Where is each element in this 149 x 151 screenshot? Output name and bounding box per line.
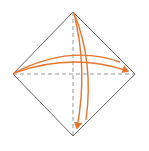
diagram-canvas xyxy=(0,0,149,151)
origami-diagram xyxy=(0,0,149,151)
paper-square-outline xyxy=(13,12,135,136)
fold-arrow-right-inner-icon xyxy=(14,62,128,73)
